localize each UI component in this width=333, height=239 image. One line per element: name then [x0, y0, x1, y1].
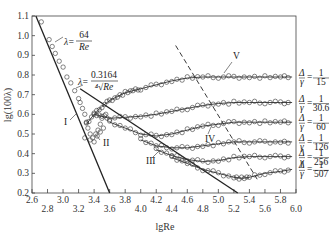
data-point [65, 75, 69, 79]
x-tick-label: 5.2 [228, 204, 240, 214]
data-point [83, 112, 87, 116]
data-point [242, 100, 246, 104]
x-tick-label: 2.6 [26, 195, 38, 205]
region-label: III [146, 150, 160, 166]
legend-r: γ [300, 122, 304, 132]
data-series [39, 20, 292, 182]
ref-line-rough-boundary [176, 46, 258, 180]
legend-item: Δγ=160 [298, 113, 329, 132]
x-tick-label: 3.8 [119, 195, 131, 205]
legend-r: γ [300, 103, 304, 113]
region-numeral: II [103, 138, 109, 148]
y-tick-label: 1.1 [17, 11, 29, 21]
data-point [268, 75, 272, 79]
data-point [39, 20, 43, 24]
region-numeral: IV [205, 134, 215, 144]
data-point [247, 75, 251, 79]
legend-den: 60 [316, 122, 326, 132]
region-label: I [64, 113, 77, 127]
data-point [139, 115, 143, 119]
data-point [232, 119, 236, 123]
data-point [195, 75, 199, 79]
data-point [242, 140, 246, 144]
legend-den: 507 [314, 169, 329, 179]
x-tick-label: 5.8 [275, 195, 287, 205]
x-tick-label: 4.8 [197, 204, 209, 214]
data-point [211, 75, 215, 79]
series-line [94, 103, 292, 119]
legend-eq: = [307, 117, 312, 127]
data-point [273, 119, 277, 123]
series-1 [92, 99, 292, 122]
data-point [216, 159, 220, 163]
x-tick-label: 3.6 [104, 204, 116, 214]
region-label: V [224, 51, 240, 73]
legend-r: γ [300, 169, 304, 179]
formula-den: ⁴√Re [95, 82, 114, 92]
data-point [232, 74, 236, 78]
data-point [98, 122, 102, 126]
data-point [268, 121, 272, 125]
laminar-formula: λ=64Re [55, 30, 92, 52]
x-tick-label: 5.6 [259, 204, 271, 214]
region-numeral: I [64, 117, 67, 127]
y-tick-label: 0.3 [17, 168, 29, 178]
data-point [286, 121, 290, 125]
x-tick-label: 5.4 [243, 195, 255, 205]
data-point [101, 126, 105, 130]
formula-den: Re [78, 42, 89, 52]
x-tick-label: 5.0 [212, 195, 224, 205]
series-line [86, 77, 292, 124]
formula-lhs: λ= [77, 77, 89, 87]
y-tick-label: 0.5 [17, 129, 29, 139]
data-point [247, 121, 251, 125]
legend-item: Δγ=115 [298, 68, 329, 87]
legend-eq: = [307, 152, 312, 162]
x-tick-label: 3.0 [57, 195, 69, 205]
legend-den: 30.6 [313, 103, 330, 113]
data-point [252, 74, 256, 78]
data-point [237, 101, 241, 105]
data-point [252, 119, 256, 123]
data-point [61, 65, 65, 69]
data-point [78, 100, 82, 104]
data-point [258, 101, 262, 105]
x-tick-label: 2.8 [42, 204, 54, 214]
legend-item: Δγ=130.6 [298, 94, 330, 113]
data-point [69, 81, 73, 85]
y-axis-title: lg(100λ) [2, 88, 14, 122]
chart: 0.20.30.40.50.60.70.80.91.01.1 2.63.03.4… [0, 0, 333, 239]
x-tick-label: 4.0 [135, 204, 147, 214]
region-numeral: V [233, 51, 240, 61]
formula-num: 0.3164 [91, 70, 117, 80]
data-point [53, 51, 57, 55]
legend-eq: = [307, 164, 312, 174]
data-point [221, 100, 225, 104]
x-tick-label: 3.4 [88, 195, 100, 205]
y-tick-label: 0.7 [17, 90, 29, 100]
series-4 [154, 146, 292, 164]
annotations: λ=64Reλ=0.3164⁴√ReIIIIIIIVV [55, 30, 240, 166]
data-point [47, 37, 51, 41]
data-point [92, 140, 96, 144]
legend-eq: = [307, 98, 312, 108]
x-tick-label: 4.4 [166, 204, 178, 214]
formula-num: 64 [79, 30, 89, 40]
x-tick-label: 4.6 [181, 195, 193, 205]
formula-lhs: λ= [63, 37, 75, 47]
data-point [80, 106, 84, 110]
data-point [273, 74, 277, 78]
region-numeral: III [146, 156, 156, 166]
x-tick-label: 4.2 [150, 195, 162, 205]
y-tick-label: 0.4 [17, 149, 29, 159]
legend-den: 15 [316, 77, 326, 87]
data-point [263, 139, 267, 143]
y-tick-label: 1.0 [17, 31, 29, 41]
legend-eq: = [307, 137, 312, 147]
region-label: II [96, 135, 109, 148]
data-point [88, 132, 92, 136]
legend: Δγ=115Δγ=130.6Δγ=160Δγ=1126Δγ=1256Δγ=150… [298, 68, 330, 179]
blasius-formula: λ=0.3164⁴√Re [76, 70, 118, 92]
x-tick-label: 3.2 [73, 204, 85, 214]
data-point [73, 89, 77, 93]
